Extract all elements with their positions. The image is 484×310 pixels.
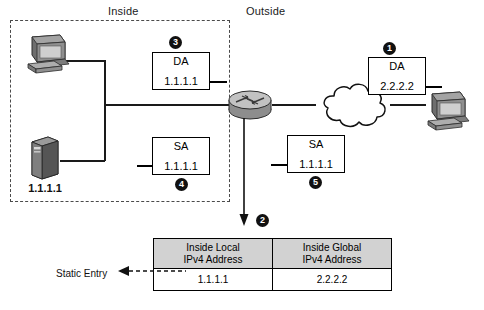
desktop-computer-icon — [24, 33, 74, 75]
packet-address-label: 1.1.1.1 — [153, 160, 209, 172]
wire-inside-server-to-trunk — [60, 160, 105, 162]
device-label-inside-server: 1.1.1.1 — [10, 182, 80, 194]
wire-router-to-cloud — [272, 104, 316, 106]
packet-address-label: 1.1.1.1 — [153, 75, 209, 87]
leader-line-outside-sa — [271, 164, 287, 166]
router-icon — [226, 88, 274, 122]
packet-box-inside-sa: SA 1.1.1.1 — [152, 137, 210, 175]
device-outside-pc — [424, 90, 474, 132]
server-tower-icon — [28, 134, 62, 180]
cell-inside-global-address: 2.2.2.2 — [273, 269, 392, 291]
packet-box-inside-da: DA 1.1.1.1 — [152, 52, 210, 90]
device-inside-server — [28, 134, 62, 180]
nat-translation-table: Inside Local IPv4 Address Inside Global … — [153, 238, 392, 291]
static-entry-callout-arrow — [118, 264, 188, 278]
table-header-inside-global: Inside Global IPv4 Address — [273, 239, 392, 269]
packet-box-outside-sa: SA 1.1.1.1 — [287, 135, 345, 173]
leader-line-inside-sa — [137, 165, 153, 167]
packet-address-label: 1.1.1.1 — [288, 158, 344, 170]
arrow-router-to-nat-table — [236, 118, 252, 228]
zone-label-outside: Outside — [246, 5, 285, 17]
wire-inside-trunk-vertical — [104, 60, 106, 161]
down-arrow-icon — [236, 118, 252, 228]
packet-type-label: DA — [153, 55, 209, 67]
wire-cloud-to-outside-pc — [390, 104, 426, 106]
table-header-inside-global-line1: Inside Global — [273, 242, 391, 254]
leader-line-inside-da — [210, 81, 227, 83]
packet-type-label: SA — [288, 138, 344, 150]
leader-line-outside-da — [426, 86, 442, 88]
step-badge-4: 4 — [175, 178, 188, 191]
table-header-inside-global-line2: IPv4 Address — [273, 254, 391, 266]
static-entry-annotation-label: Static Entry — [56, 268, 107, 279]
table-row: 1.1.1.1 2.2.2.2 — [154, 269, 392, 291]
network-nat-diagram: Inside Outside — [0, 0, 484, 310]
table-header-inside-local-line1: Inside Local — [154, 242, 272, 254]
desktop-computer-icon — [424, 90, 474, 132]
device-router — [226, 88, 274, 122]
packet-type-label: DA — [369, 60, 425, 72]
step-badge-5: 5 — [309, 176, 322, 189]
step-badge-3: 3 — [169, 36, 182, 49]
step-badge-2: 2 — [256, 214, 269, 227]
table-header-row: Inside Local IPv4 Address Inside Global … — [154, 239, 392, 269]
packet-address-label: 2.2.2.2 — [369, 80, 425, 92]
packet-type-label: SA — [153, 140, 209, 152]
device-inside-pc — [24, 33, 74, 75]
left-arrow-icon — [118, 264, 188, 278]
step-badge-1: 1 — [383, 42, 396, 55]
wire-trunk-to-router — [104, 104, 234, 106]
zone-label-inside: Inside — [108, 5, 139, 17]
packet-box-outside-da: DA 2.2.2.2 — [368, 57, 426, 95]
